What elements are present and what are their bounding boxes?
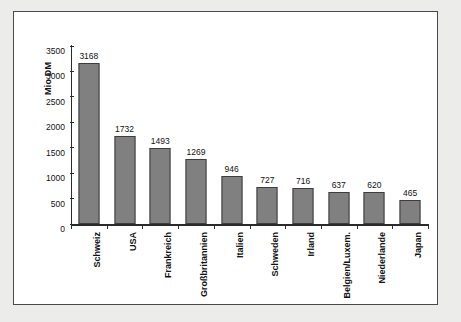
bar[interactable] xyxy=(221,176,242,224)
y-axis-tick-text: 2500 xyxy=(46,98,71,107)
bar-value-label: 1269 xyxy=(186,148,205,157)
x-axis-tick-mark xyxy=(392,224,393,229)
bar[interactable] xyxy=(364,192,385,224)
bar-group[interactable]: 716 xyxy=(285,46,321,224)
x-axis-category-label: Niederlande xyxy=(378,232,387,284)
bar-value-label: 3168 xyxy=(79,52,98,61)
bar-value-label: 465 xyxy=(403,189,417,198)
bar-group[interactable]: 637 xyxy=(321,46,357,224)
bar-value-label: 637 xyxy=(332,181,346,190)
x-axis-tick-mark xyxy=(321,224,322,229)
bar-value-label: 620 xyxy=(367,181,381,190)
x-axis-tick-mark xyxy=(214,224,215,229)
chart-frame: Mio DM 0500100015002000250030003500 3168… xyxy=(13,11,438,305)
bar-value-label: 727 xyxy=(260,176,274,185)
x-axis-tick-mark xyxy=(107,224,108,229)
bar[interactable] xyxy=(150,148,171,224)
bar-group[interactable]: 465 xyxy=(392,46,428,224)
bar[interactable] xyxy=(185,159,206,224)
x-axis-category-label: Großbritannien xyxy=(200,232,209,297)
x-axis-tick-mark xyxy=(285,224,286,229)
y-axis-tick-text: 1000 xyxy=(46,174,71,183)
bar[interactable] xyxy=(114,136,135,224)
x-axis-category-label: Irland xyxy=(307,232,316,257)
bar-value-label: 946 xyxy=(225,165,239,174)
bar-group[interactable]: 1493 xyxy=(142,46,178,224)
x-axis-category-label: Belgien/Luxem. xyxy=(343,232,352,299)
x-axis-category-label: Schweiz xyxy=(93,232,102,268)
bar-group[interactable]: 727 xyxy=(250,46,286,224)
x-axis-tick-mark xyxy=(71,224,72,229)
x-axis-tick-mark xyxy=(250,224,251,229)
y-axis-tick-text: 2000 xyxy=(46,123,71,132)
bar-group[interactable]: 3168 xyxy=(71,46,107,224)
plot-area: 3168173214931269946727716637620465 xyxy=(71,46,428,224)
y-axis-tick-text: 1500 xyxy=(46,149,71,158)
bar[interactable] xyxy=(257,187,278,224)
bar[interactable] xyxy=(293,188,314,224)
y-axis-tick-text: 500 xyxy=(51,200,71,209)
bar-value-label: 716 xyxy=(296,177,310,186)
bar-group[interactable]: 620 xyxy=(357,46,393,224)
bar-group[interactable]: 1269 xyxy=(178,46,214,224)
bar[interactable] xyxy=(78,63,99,224)
bar[interactable] xyxy=(400,200,421,224)
bar-group[interactable]: 946 xyxy=(214,46,250,224)
bar[interactable] xyxy=(328,192,349,224)
x-axis-tick-mark xyxy=(178,224,179,229)
x-axis-category-label: Frankreich xyxy=(164,232,173,278)
y-axis-tick-text: 0 xyxy=(60,225,71,234)
x-axis-category-label: USA xyxy=(129,232,138,251)
x-axis-tick-mark xyxy=(142,224,143,229)
y-axis-tick-text: 3000 xyxy=(46,72,71,81)
x-axis-tick-mark xyxy=(428,224,429,229)
x-axis-category-label: Japan xyxy=(414,232,423,258)
x-axis-category-label: Schweden xyxy=(271,232,280,277)
bar-value-label: 1732 xyxy=(115,125,134,134)
x-axis-tick-mark xyxy=(357,224,358,229)
bar-group[interactable]: 1732 xyxy=(107,46,143,224)
bar-value-label: 1493 xyxy=(151,137,170,146)
x-axis-category-label: Italien xyxy=(236,232,245,258)
y-axis-tick-text: 3500 xyxy=(46,47,71,56)
